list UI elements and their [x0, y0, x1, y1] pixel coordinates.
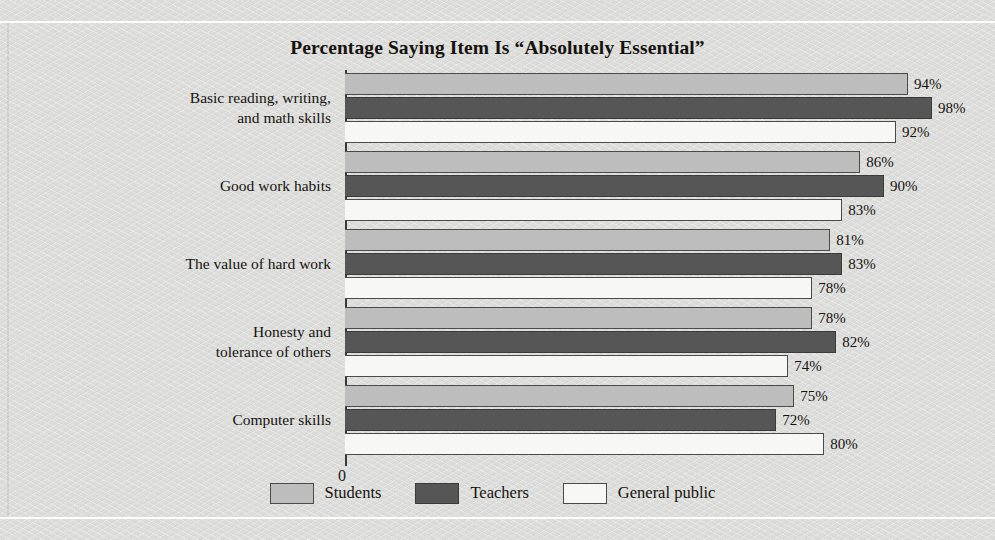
- bottom-divider-rule: [0, 517, 995, 519]
- bar-general[interactable]: [345, 355, 788, 377]
- legend-item-teachers[interactable]: Teachers: [415, 483, 528, 504]
- bar-row[interactable]: 74%: [345, 355, 822, 377]
- legend-label: Students: [325, 483, 382, 503]
- bar-value-label: 86%: [866, 154, 894, 171]
- bar-students[interactable]: [345, 151, 860, 173]
- bar-row[interactable]: 83%: [345, 253, 876, 275]
- category-label: Computer skills: [9, 410, 331, 430]
- legend-swatch-teachers: [415, 483, 459, 504]
- bar-value-label: 90%: [890, 178, 918, 195]
- bar-row[interactable]: 92%: [345, 121, 930, 143]
- bar-students[interactable]: [345, 307, 812, 329]
- bar-value-label: 75%: [800, 388, 828, 405]
- chart-legend: StudentsTeachersGeneral public: [9, 478, 986, 508]
- bar-students[interactable]: [345, 229, 830, 251]
- category-label: The value of hard work: [9, 254, 331, 274]
- plot-area: 0 Basic reading, writing,and math skills…: [9, 67, 986, 477]
- bar-value-label: 83%: [848, 202, 876, 219]
- bar-value-label: 74%: [794, 358, 822, 375]
- bar-row[interactable]: 72%: [345, 409, 810, 431]
- bar-value-label: 98%: [938, 100, 966, 117]
- bar-row[interactable]: 86%: [345, 151, 894, 173]
- bar-general[interactable]: [345, 121, 896, 143]
- legend-item-students[interactable]: Students: [270, 483, 382, 504]
- bar-row[interactable]: 81%: [345, 229, 864, 251]
- bar-group: Computer skills75%72%80%: [9, 385, 986, 455]
- bar-group: Basic reading, writing,and math skills94…: [9, 73, 986, 143]
- chart-panel: Percentage Saying Item Is “Absolutely Es…: [9, 23, 986, 517]
- legend-label: General public: [618, 483, 716, 503]
- bar-groups: Basic reading, writing,and math skills94…: [9, 67, 986, 467]
- bar-general[interactable]: [345, 433, 824, 455]
- bar-value-label: 72%: [782, 412, 810, 429]
- chart-title: Percentage Saying Item Is “Absolutely Es…: [9, 37, 986, 59]
- bar-group: Honesty andtolerance of others78%82%74%: [9, 307, 986, 377]
- bar-general[interactable]: [345, 277, 812, 299]
- category-label: Good work habits: [9, 176, 331, 196]
- bar-value-label: 94%: [914, 76, 942, 93]
- bar-teachers[interactable]: [345, 97, 932, 119]
- bar-row[interactable]: 82%: [345, 331, 870, 353]
- bar-general[interactable]: [345, 199, 842, 221]
- category-label: Honesty andtolerance of others: [9, 322, 331, 362]
- bar-teachers[interactable]: [345, 175, 884, 197]
- bar-row[interactable]: 94%: [345, 73, 942, 95]
- category-label: Basic reading, writing,and math skills: [9, 88, 331, 128]
- bar-row[interactable]: 78%: [345, 307, 846, 329]
- bar-value-label: 92%: [902, 124, 930, 141]
- bar-value-label: 82%: [842, 334, 870, 351]
- legend-swatch-general: [563, 483, 607, 504]
- bar-value-label: 78%: [818, 280, 846, 297]
- bar-row[interactable]: 78%: [345, 277, 846, 299]
- bar-group: Good work habits86%90%83%: [9, 151, 986, 221]
- bar-row[interactable]: 90%: [345, 175, 918, 197]
- bar-row[interactable]: 80%: [345, 433, 858, 455]
- bar-row[interactable]: 83%: [345, 199, 876, 221]
- bar-value-label: 81%: [836, 232, 864, 249]
- bar-teachers[interactable]: [345, 253, 842, 275]
- legend-item-general[interactable]: General public: [563, 483, 716, 504]
- bar-value-label: 80%: [830, 436, 858, 453]
- bar-group: The value of hard work81%83%78%: [9, 229, 986, 299]
- legend-label: Teachers: [470, 483, 528, 503]
- legend-swatch-students: [270, 483, 314, 504]
- bar-value-label: 78%: [818, 310, 846, 327]
- bar-row[interactable]: 98%: [345, 97, 966, 119]
- bar-value-label: 83%: [848, 256, 876, 273]
- bar-students[interactable]: [345, 73, 908, 95]
- bar-teachers[interactable]: [345, 331, 836, 353]
- bar-teachers[interactable]: [345, 409, 776, 431]
- bar-row[interactable]: 75%: [345, 385, 828, 407]
- bar-students[interactable]: [345, 385, 794, 407]
